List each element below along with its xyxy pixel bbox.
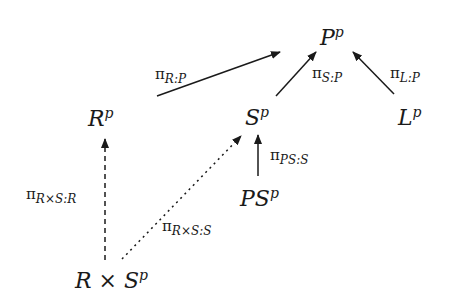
node-p-sup: p bbox=[335, 24, 344, 40]
node-r-sup: p bbox=[105, 105, 114, 121]
pi-symbol: π bbox=[162, 217, 172, 235]
label-subscript: R:P bbox=[165, 72, 186, 86]
node-rxs: R × Sp bbox=[75, 268, 148, 292]
label-r-p: πR:P bbox=[155, 67, 186, 85]
label-subscript: L:P bbox=[400, 71, 420, 85]
arrows-layer bbox=[0, 0, 454, 303]
node-r-base: R bbox=[88, 106, 105, 131]
label-l-p: πL:P bbox=[390, 66, 420, 84]
label-subscript: S:P bbox=[322, 71, 342, 85]
label-subscript: PS:S bbox=[280, 153, 309, 167]
arrow-rxs-to-s bbox=[122, 136, 241, 259]
node-ps-base: PS bbox=[240, 186, 270, 211]
node-l-base: L bbox=[398, 105, 413, 130]
arrow-l-to-p bbox=[353, 52, 394, 94]
label-s-p: πS:P bbox=[312, 66, 342, 84]
node-ps: PSp bbox=[240, 186, 279, 210]
pi-symbol: π bbox=[390, 64, 400, 82]
node-ps-sup: p bbox=[270, 185, 279, 201]
label-subscript: R×S:S bbox=[172, 224, 212, 238]
node-s-base: S bbox=[245, 105, 260, 130]
node-l: Lp bbox=[398, 105, 422, 129]
label-rxs-r: πR×S:R bbox=[26, 187, 76, 205]
label-rxs-s: πR×S:S bbox=[162, 219, 211, 237]
label-subscript: R×S:R bbox=[36, 192, 76, 206]
node-r: Rp bbox=[88, 106, 114, 130]
pi-symbol: π bbox=[270, 146, 280, 164]
node-s-sup: p bbox=[260, 104, 269, 120]
label-ps-s: πPS:S bbox=[270, 148, 308, 166]
node-rxs-sup: p bbox=[139, 267, 148, 283]
node-s: Sp bbox=[245, 105, 269, 129]
node-l-sup: p bbox=[413, 104, 422, 120]
pi-symbol: π bbox=[26, 185, 36, 203]
pi-symbol: π bbox=[155, 65, 165, 83]
node-p: Pp bbox=[320, 25, 344, 49]
arrow-s-to-p bbox=[276, 52, 316, 96]
node-rxs-base: R × S bbox=[75, 268, 139, 293]
node-p-base: P bbox=[320, 25, 335, 50]
pi-symbol: π bbox=[312, 64, 322, 82]
